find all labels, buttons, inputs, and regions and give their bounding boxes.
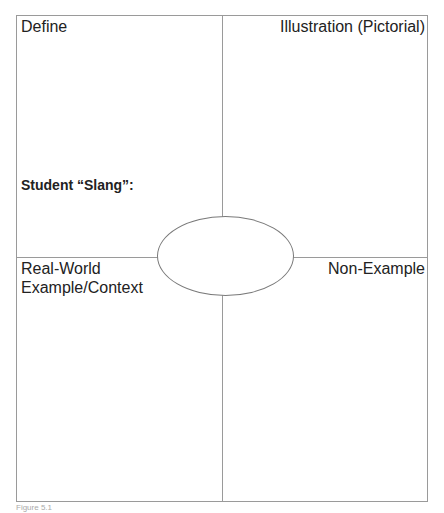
center-term-oval[interactable] <box>157 216 294 296</box>
real-world-line1: Real-World <box>21 259 143 278</box>
quadrant-illustration-label: Illustration (Pictorial) <box>280 17 425 36</box>
quadrant-real-world-label: Real-World Example/Context <box>21 259 143 297</box>
real-world-line2: Example/Context <box>21 278 143 297</box>
quadrant-define-label: Define <box>21 17 67 36</box>
quadrant-non-example-label: Non-Example <box>328 259 425 278</box>
figure-caption: Figure 5.1 <box>16 503 52 512</box>
student-slang-label: Student “Slang”: <box>21 176 134 195</box>
